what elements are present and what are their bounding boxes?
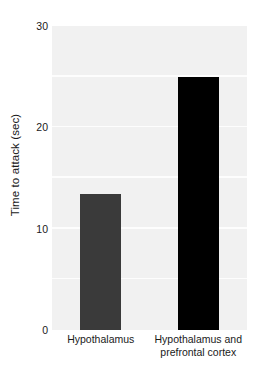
plot-area [52, 26, 247, 330]
x-tick-label-line: prefrontal cortex [150, 346, 248, 359]
x-tick-label-line: Hypothalamus and [150, 333, 248, 346]
bar-chart-figure: Time to attack (sec) 3020100 Hypothalamu… [0, 0, 262, 373]
y-tick-label: 10 [26, 224, 48, 235]
x-tick-label-0: Hypothalamus [52, 333, 150, 346]
x-tick-label-line: Hypothalamus [52, 333, 150, 346]
bar-1 [178, 77, 219, 330]
y-tick-label: 20 [26, 122, 48, 133]
bar-0 [80, 194, 121, 330]
y-tick-label: 30 [26, 21, 48, 32]
y-axis-tick-labels: 3020100 [26, 0, 48, 373]
y-axis-title-text: Time to attack (sec) [9, 114, 21, 217]
x-axis-tick-labels: HypothalamusHypothalamus andprefrontal c… [52, 333, 247, 373]
y-tick-label: 0 [26, 325, 48, 336]
x-tick-label-1: Hypothalamus andprefrontal cortex [150, 333, 248, 360]
